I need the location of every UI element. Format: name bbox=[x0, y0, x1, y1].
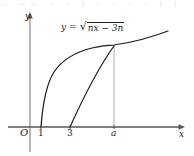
radical-sign-icon: √ bbox=[80, 22, 87, 31]
x-tick-label-a: a bbox=[111, 129, 116, 138]
y-axis-label: y bbox=[25, 12, 30, 21]
origin-label: O bbox=[20, 128, 28, 138]
x-tick-label-3: 3 bbox=[67, 129, 73, 138]
chord-curve-from-3 bbox=[70, 46, 114, 127]
x-tick-label-1: 1 bbox=[38, 129, 44, 138]
equation-radicand: nx − 3n bbox=[87, 22, 125, 33]
x-axis-label: x bbox=[179, 130, 184, 139]
curve-equation-label: y = √ nx − 3n bbox=[61, 22, 124, 33]
figure-container: — —— – – | – – – – | | y x O 1 3 a y = √… bbox=[0, 0, 194, 156]
equation-equals-sign: = bbox=[66, 22, 80, 32]
sqrt-curve bbox=[41, 31, 168, 127]
